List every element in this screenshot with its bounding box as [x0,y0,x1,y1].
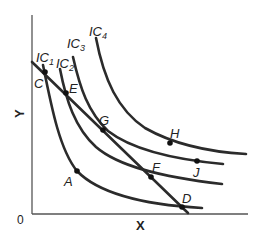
point-g [100,127,106,133]
point-h [167,140,173,146]
label-c: C [34,76,44,91]
point-a [74,168,80,174]
indifference-curve-diagram: IC1 IC2 IC3 IC4 C E G F D A H J Y X 0 [0,0,258,245]
label-g: G [99,113,109,128]
label-j: J [192,165,200,180]
label-ic1: IC1 [36,50,54,67]
x-axis-label: X [136,218,145,233]
label-f: F [152,160,161,175]
label-h: H [170,126,180,141]
label-ic4: IC4 [89,24,107,41]
y-axis-label: Y [12,109,27,118]
origin-label: 0 [17,213,24,227]
point-e [63,90,69,96]
point-j [194,158,200,164]
label-ic3: IC3 [67,36,85,53]
label-ic2: IC2 [56,56,74,73]
label-e: E [69,81,78,96]
label-a: A [63,174,73,189]
label-d: D [182,191,191,206]
point-f [148,174,154,180]
point-c [42,69,48,75]
